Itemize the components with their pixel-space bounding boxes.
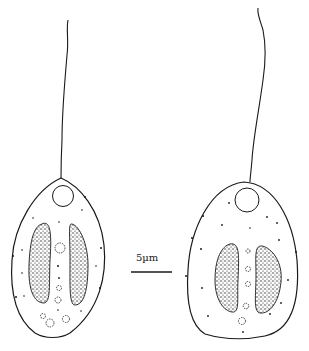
right-plastid-right	[255, 246, 281, 313]
right-cell-body	[188, 182, 298, 339]
left-cell-body	[12, 178, 105, 338]
scale-bar-label: 5µm	[136, 252, 158, 263]
left-plastid-left	[29, 223, 51, 303]
cells-drawing	[0, 0, 309, 351]
figure-canvas: 5µm	[0, 0, 309, 351]
left-flagellum	[61, 20, 68, 178]
right-cell	[185, 8, 298, 339]
left-cell	[12, 20, 105, 338]
right-vesicle	[235, 188, 259, 212]
right-plastid-left	[215, 244, 239, 312]
left-vesicle	[53, 186, 74, 207]
right-flagellum	[250, 8, 265, 182]
left-plastid-right	[70, 224, 89, 305]
